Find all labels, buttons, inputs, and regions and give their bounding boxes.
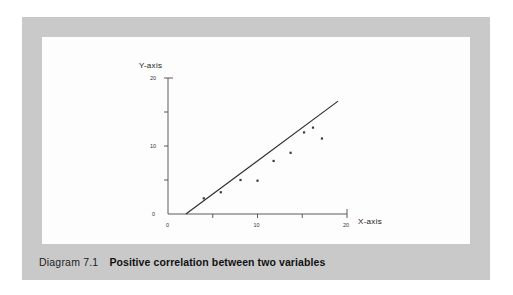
- figure-frame: Y-axis X-axis 0 10 20 0 10 20 Diagram 7.…: [22, 17, 490, 280]
- x-tick-label: 10: [254, 222, 260, 228]
- caption-number: Diagram 7.1: [39, 256, 98, 268]
- x-tick-label: 0: [166, 222, 169, 228]
- y-tick-label: 10: [150, 143, 156, 149]
- chart-canvas: [42, 37, 470, 244]
- plot-panel: Y-axis X-axis 0 10 20 0 10 20: [42, 37, 470, 244]
- figure-root: Y-axis X-axis 0 10 20 0 10 20 Diagram 7.…: [0, 0, 513, 295]
- scatter-chart: Y-axis X-axis 0 10 20 0 10 20: [42, 37, 470, 244]
- x-tick-label: 20: [343, 222, 349, 228]
- y-tick-label: 20: [150, 75, 156, 81]
- figure-caption: Diagram 7.1 Positive correlation between…: [22, 244, 490, 280]
- y-tick-label: 0: [152, 211, 155, 217]
- caption-title: Positive correlation between two variabl…: [109, 256, 325, 268]
